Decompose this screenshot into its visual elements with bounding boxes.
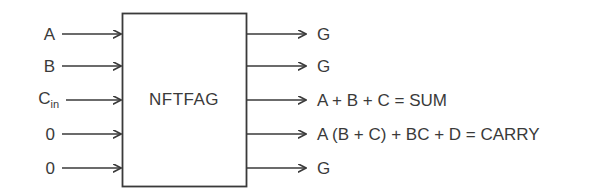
input-label-zero-2: 0 [0,160,55,177]
input-arrows [62,34,121,168]
input-label-b: B [0,58,55,75]
output-label-sum: A + B + C = SUM [317,92,447,109]
input-label-cin: Cin [0,90,59,110]
input-label-zero-1: 0 [0,126,55,143]
input-label-cin-base: C [38,89,50,108]
block-label: NFTFAG [149,90,219,110]
input-label-a: A [0,26,55,43]
input-label-cin-subscript: in [50,98,59,110]
output-arrows [247,34,306,168]
output-label-carry: A (B + C) + BC + D = CARRY [317,126,540,143]
diagram-canvas [0,0,608,196]
block-diagram: NFTFAG A B Cin 0 0 G G A + B + C = SUM A… [0,0,608,196]
output-label-g-3: G [317,160,330,177]
output-label-g-2: G [317,58,330,75]
output-label-g-1: G [317,26,330,43]
